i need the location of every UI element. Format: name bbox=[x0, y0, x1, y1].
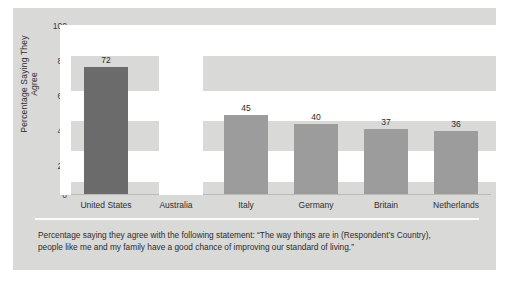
bar-value-united-states: 72 bbox=[71, 55, 141, 65]
caption-line-1: Percentage saying they agree with the fo… bbox=[38, 230, 486, 242]
bar-column-italy: 45 Italy bbox=[211, 18, 281, 194]
bar-column-united-states: 72 United States bbox=[71, 18, 141, 194]
scan-artifact-gutter-1 bbox=[60, 25, 71, 195]
bar-value-germany: 40 bbox=[281, 112, 351, 122]
category-label-netherlands: Netherlands bbox=[415, 200, 497, 210]
figure-caption: Percentage saying they agree with the fo… bbox=[38, 230, 486, 253]
bar-united-states bbox=[84, 67, 128, 194]
bar-column-netherlands: 36 Netherlands bbox=[421, 18, 491, 194]
category-label-australia: Australia bbox=[135, 200, 217, 210]
bar-column-germany: 40 Germany bbox=[281, 18, 351, 194]
bar-value-britain: 37 bbox=[351, 117, 421, 127]
caption-line-2: people like me and my family have a good… bbox=[38, 242, 486, 254]
x-axis-line bbox=[71, 194, 491, 195]
bar-column-britain: 37 Britain bbox=[351, 18, 421, 194]
bar-britain bbox=[364, 129, 408, 194]
bar-value-italy: 45 bbox=[211, 103, 281, 113]
bar-germany bbox=[294, 124, 338, 194]
bar-value-netherlands: 36 bbox=[421, 119, 491, 129]
scan-artifact-gutter-0 bbox=[159, 25, 203, 195]
bar-netherlands bbox=[434, 131, 478, 194]
figure-panel: Percentage Saying They Agree 100 80 60 4… bbox=[13, 8, 496, 270]
caption-divider bbox=[35, 218, 479, 220]
bar-italy bbox=[224, 115, 268, 194]
bar-series: 72 United States 61 Australia 45 Italy 4… bbox=[71, 18, 491, 194]
